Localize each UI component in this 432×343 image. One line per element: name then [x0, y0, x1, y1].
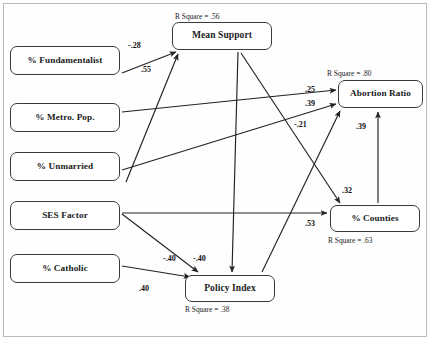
arrow-cath-policy [122, 266, 190, 277]
coefficient-ses-policy: -.40 [163, 254, 176, 263]
node-unmarried[interactable]: % Unmarried [10, 152, 120, 181]
node-label: % Catholic [42, 264, 88, 273]
coefficient-mean-counties: .32 [342, 186, 352, 195]
node-label: SES Factor [42, 211, 88, 220]
node-counties[interactable]: % Counties [330, 205, 420, 232]
coefficient-ses-counties: .53 [305, 219, 315, 228]
node-label: % Fundamentalist [28, 56, 103, 65]
node-label: Abortion Ratio [350, 89, 411, 98]
rsquare-meansupport: R Square = .56 [175, 12, 219, 21]
node-fundamentalist[interactable]: % Fundamentalist [10, 46, 120, 75]
coefficient-metro-abort: .25 [305, 85, 315, 94]
node-catholic[interactable]: % Catholic [10, 254, 120, 283]
node-label: Mean Support [192, 31, 252, 41]
node-label: Policy Index [204, 284, 256, 294]
arrow-mean-counties [241, 53, 340, 203]
coefficient-policy-abort: -.21 [294, 120, 307, 129]
arrow-ses-policy [122, 214, 198, 272]
node-label: % Metro. Pop. [35, 113, 94, 122]
rsquare-policyindex: R Square = .38 [185, 305, 229, 314]
arrow-policy-abort [262, 111, 340, 272]
arrow-mean-policy [232, 52, 238, 272]
coefficient-counties-abort: .39 [356, 122, 366, 131]
path-diagram-canvas: % Fundamentalist% Metro. Pop.% Unmarried… [0, 0, 432, 343]
arrow-unmar-mean [126, 54, 178, 182]
node-abortionratio[interactable]: Abortion Ratio [338, 80, 423, 108]
node-label: % Unmarried [37, 162, 93, 171]
coefficient-mean-policy: -.40 [193, 254, 206, 263]
node-ses[interactable]: SES Factor [10, 201, 120, 230]
node-policyindex[interactable]: Policy Index [185, 275, 275, 302]
arrow-metro-abort [122, 90, 336, 112]
rsquare-counties: R Square = .63 [328, 236, 372, 245]
coefficient-ses-abort: .39 [305, 99, 315, 108]
coefficient-cath-policy: .40 [139, 284, 149, 293]
node-label: % Counties [351, 214, 398, 223]
rsquare-abortionratio: R Square = .80 [327, 69, 371, 78]
node-metro[interactable]: % Metro. Pop. [10, 103, 120, 132]
coefficient-unmar-mean: .55 [141, 65, 151, 74]
node-meansupport[interactable]: Mean Support [172, 22, 272, 50]
coefficient-fund-mean: -.28 [128, 41, 141, 50]
